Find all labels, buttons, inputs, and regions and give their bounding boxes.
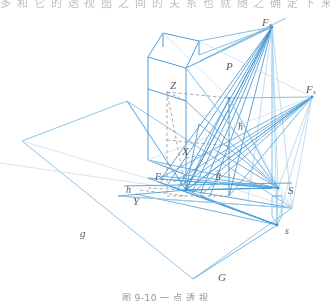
figure-canvas: 多 和 它 的 透 视 图 之 间 的 关 系 也 就 随 之 确 定 下 来 — [0, 0, 330, 301]
picture-plane-rectangle — [148, 33, 199, 68]
label-ground-plane-G: G — [218, 272, 226, 283]
figure-caption-text: 图 9-10 一 点 透 视 — [122, 293, 209, 301]
label-point-Z: Z — [170, 80, 176, 91]
tilde-accent: ~ — [238, 120, 242, 128]
figure-caption: 图 9-10 一 点 透 视 — [0, 287, 330, 301]
label-line-g: g — [80, 228, 86, 239]
label-station-point-s: s — [285, 226, 289, 236]
tilde-accent-g: ~ — [216, 168, 220, 176]
label-Fz-base: F — [262, 16, 269, 28]
label-point-X: X — [182, 146, 189, 157]
label-point-P: P — [226, 61, 233, 72]
label-point-Y: Y — [133, 196, 139, 207]
rays-from-station-point-S — [148, 68, 278, 190]
label-Fx-base: F — [306, 83, 313, 95]
label-line-h-tilde: h~ — [238, 122, 243, 132]
label-vanishing-point-Fy: Fy — [155, 172, 164, 182]
label-station-point-S: S — [288, 185, 294, 196]
perspective-diagram-svg — [0, 0, 330, 301]
label-line-h: h — [126, 185, 131, 195]
label-Fz-sub: z — [269, 21, 272, 28]
label-vanishing-point-Fz: Fz — [262, 17, 272, 29]
label-Fy-sub: y — [161, 176, 164, 182]
label-Fx-sub: x — [313, 88, 316, 95]
ground-plane-G — [22, 101, 292, 279]
label-vanishing-point-Fx: Fx — [306, 84, 316, 96]
label-line-g-tilde: g~ — [216, 170, 221, 180]
